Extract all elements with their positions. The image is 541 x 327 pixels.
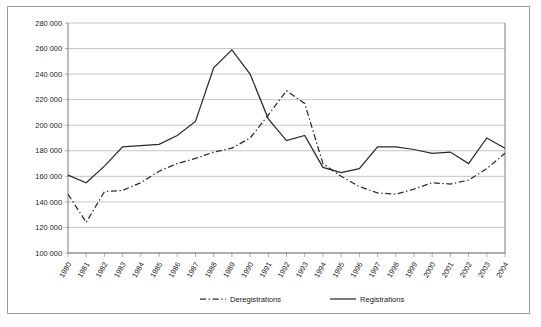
y-axis-label: 280 000 [35, 19, 62, 28]
data-series-group [68, 50, 505, 223]
x-axis-label: 2004 [494, 261, 510, 280]
y-axis-label: 120 000 [35, 223, 62, 232]
x-axis-label: 2003 [476, 261, 492, 280]
series-line-registrations [68, 50, 505, 183]
x-axis-label: 1986 [166, 261, 182, 280]
y-axis-label: 180 000 [35, 146, 62, 155]
x-axis-label: 1999 [403, 261, 419, 280]
x-axis-label: 2000 [421, 261, 437, 280]
x-axis-label: 1990 [239, 261, 255, 280]
x-axis-label: 1984 [130, 261, 146, 280]
chart-screenshot: 280 000260 000240 000220 000200 000180 0… [0, 0, 541, 327]
y-axis-label: 260 000 [35, 44, 62, 53]
x-axis-label: 1981 [75, 261, 91, 280]
x-axis-label: 1989 [221, 261, 237, 280]
chart-legend: DeregistrationsRegistrations [200, 295, 405, 304]
x-axis-label: 1997 [367, 261, 383, 280]
x-axis-label: 1980 [57, 261, 73, 280]
legend-label-deregistrations: Deregistrations [230, 295, 281, 304]
x-axis-label: 2001 [440, 261, 456, 280]
x-axis-labels-group: 1980198119821983198419851986198719881989… [57, 261, 510, 280]
x-axis-label: 1988 [203, 261, 219, 280]
y-axis-label: 240 000 [35, 70, 62, 79]
x-axis-label: 1998 [385, 261, 401, 280]
x-axis-label: 1991 [258, 261, 274, 280]
legend-label-registrations: Registrations [360, 295, 405, 304]
x-axis-label: 1994 [312, 261, 328, 280]
line-chart: 280 000260 000240 000220 000200 000180 0… [0, 0, 541, 327]
x-axis-label: 1996 [349, 261, 365, 280]
y-axis-label: 200 000 [35, 121, 62, 130]
x-axis-label: 2002 [458, 261, 474, 280]
y-axis-label: 140 000 [35, 198, 62, 207]
x-axis-label: 1995 [330, 261, 346, 280]
x-axis-label: 1992 [276, 261, 292, 280]
y-axis-labels-group: 280 000260 000240 000220 000200 000180 0… [35, 19, 62, 258]
y-axis-label: 100 000 [35, 249, 62, 258]
series-line-deregistrations [68, 91, 505, 223]
x-axis-label: 1993 [294, 261, 310, 280]
y-axis-label: 220 000 [35, 95, 62, 104]
y-axis-label: 160 000 [35, 172, 62, 181]
x-axis-label: 1983 [112, 261, 128, 280]
x-axis-label: 1987 [185, 261, 201, 280]
x-axis-ticks-group [68, 253, 505, 257]
x-axis-label: 1985 [148, 261, 164, 280]
x-axis-label: 1982 [94, 261, 110, 280]
